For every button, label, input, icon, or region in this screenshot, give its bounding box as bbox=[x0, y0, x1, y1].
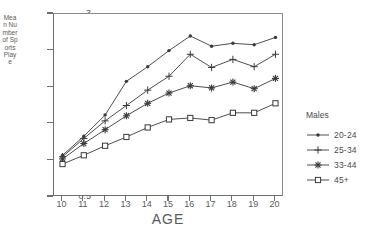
data-point-filled-dot bbox=[167, 49, 170, 52]
x-tick-mark bbox=[146, 196, 147, 201]
data-point-asterisk bbox=[144, 100, 151, 107]
y-axis-title: Mean Number of Sports Playe bbox=[2, 14, 18, 66]
legend: Males 20-2425-3433-4445+ bbox=[306, 110, 377, 187]
data-point-filled-dot bbox=[274, 36, 277, 39]
data-point-asterisk bbox=[251, 85, 258, 92]
data-point-plus bbox=[208, 64, 215, 71]
chart-figure: Mean Number of Sports Playe 32.521.510.5… bbox=[0, 0, 377, 243]
data-point-asterisk bbox=[102, 126, 109, 133]
x-tick-mark bbox=[210, 196, 211, 201]
data-point-filled-dot bbox=[231, 42, 234, 45]
series-25-34 bbox=[59, 51, 279, 161]
data-point-asterisk bbox=[166, 90, 173, 97]
data-point-asterisk bbox=[187, 82, 194, 89]
data-point-asterisk bbox=[123, 112, 130, 119]
legend-item-25-34[interactable]: 25-34 bbox=[306, 142, 377, 157]
data-point-filled-dot bbox=[210, 45, 213, 48]
legend-item-label: 25-34 bbox=[334, 145, 357, 155]
data-point-open-square bbox=[209, 118, 214, 123]
data-point-open-square bbox=[166, 117, 171, 122]
legend-marker-asterisk-icon bbox=[306, 159, 330, 171]
x-tick-mark bbox=[104, 196, 105, 201]
data-point-plus bbox=[314, 146, 321, 153]
x-tick-mark bbox=[125, 196, 126, 201]
x-tick-mark bbox=[61, 196, 62, 201]
legend-item-label: 33-44 bbox=[334, 160, 357, 170]
data-point-filled-dot bbox=[125, 80, 128, 83]
data-point-filled-dot bbox=[189, 34, 192, 37]
x-tick-mark bbox=[82, 196, 83, 201]
legend-marker-plus-icon bbox=[306, 144, 330, 156]
legend-item-45+[interactable]: 45+ bbox=[306, 172, 377, 187]
data-point-asterisk bbox=[229, 79, 236, 86]
data-point-plus bbox=[229, 56, 236, 63]
data-point-open-square bbox=[273, 101, 278, 106]
x-tick-mark bbox=[274, 196, 275, 201]
legend-items: 20-2425-3433-4445+ bbox=[306, 127, 377, 187]
data-point-filled-dot bbox=[146, 65, 149, 68]
legend-marker-filled-dot-icon bbox=[306, 129, 330, 141]
data-point-open-square bbox=[103, 143, 108, 148]
series-canvas bbox=[54, 14, 284, 197]
plot-area bbox=[53, 13, 283, 196]
x-tick-mark bbox=[167, 196, 168, 201]
legend-item-label: 45+ bbox=[334, 175, 349, 185]
legend-item-20-24[interactable]: 20-24 bbox=[306, 127, 377, 142]
x-tick-mark bbox=[231, 196, 232, 201]
legend-item-label: 20-24 bbox=[334, 130, 357, 140]
data-point-open-square bbox=[188, 115, 193, 120]
data-point-open-square bbox=[145, 125, 150, 130]
data-point-plus bbox=[251, 63, 258, 70]
data-point-open-square bbox=[230, 110, 235, 115]
legend-title: Males bbox=[306, 110, 377, 120]
x-tick-mark bbox=[189, 196, 190, 201]
data-point-open-square bbox=[124, 134, 129, 139]
data-point-filled-dot bbox=[103, 113, 106, 116]
data-point-plus bbox=[144, 87, 151, 94]
data-point-plus bbox=[272, 51, 279, 58]
data-point-open-square bbox=[252, 110, 257, 115]
data-point-plus bbox=[123, 102, 130, 109]
data-point-open-square bbox=[315, 177, 320, 182]
x-tick-mark bbox=[253, 196, 254, 201]
data-point-filled-dot bbox=[252, 43, 255, 46]
data-point-asterisk bbox=[80, 140, 87, 147]
legend-item-33-44[interactable]: 33-44 bbox=[306, 157, 377, 172]
series-45+ bbox=[60, 101, 278, 167]
data-point-asterisk bbox=[208, 84, 215, 91]
legend-marker-open-square-icon bbox=[306, 174, 330, 186]
data-point-asterisk bbox=[272, 75, 279, 82]
data-point-asterisk bbox=[315, 161, 322, 168]
data-point-filled-dot bbox=[316, 133, 319, 136]
x-axis-title: AGE bbox=[0, 211, 336, 227]
data-point-open-square bbox=[60, 161, 65, 166]
data-point-open-square bbox=[81, 153, 86, 158]
